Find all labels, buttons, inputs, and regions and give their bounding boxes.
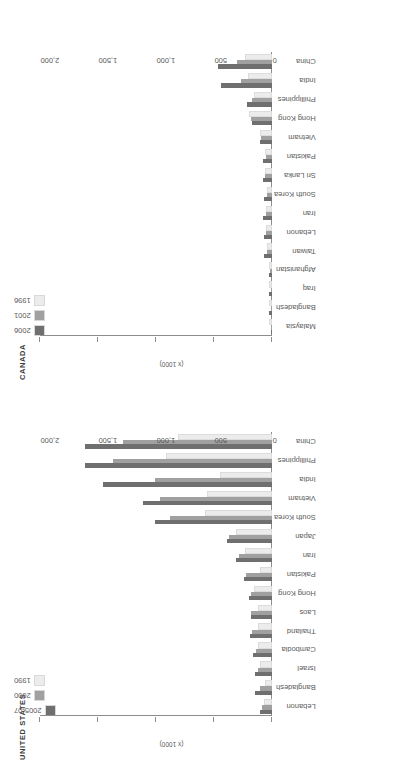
bar [266, 206, 272, 212]
bar [236, 558, 272, 562]
bar [248, 73, 272, 79]
bar [252, 630, 272, 634]
bar [143, 501, 272, 505]
bar [249, 111, 272, 117]
category-label-text: Bangladesh [274, 304, 316, 312]
bar-group [40, 640, 272, 659]
category-label-text: Iran [274, 209, 316, 217]
category-label: Israel [274, 659, 316, 678]
bar [249, 596, 272, 600]
bar [113, 459, 272, 463]
bar [251, 615, 272, 619]
plot-area-united-states: 05001,0001,5002,000(x 1000) [40, 432, 272, 716]
bar [250, 634, 272, 638]
bar-group [40, 71, 272, 90]
bar [265, 174, 272, 178]
axis-unit-label: (x 1000) [159, 741, 183, 748]
category-label-text: South Korea [274, 513, 316, 521]
bar-group [40, 222, 272, 241]
bar [269, 292, 272, 296]
category-label: Lebanon [274, 697, 316, 716]
bar [246, 573, 272, 577]
bar [155, 520, 272, 524]
bar [266, 212, 272, 216]
axis-tick-label: 1,500 [98, 436, 117, 444]
axis-tick-label: 1,000 [156, 436, 175, 444]
category-label-text: Malaysia [274, 323, 316, 331]
bar [270, 269, 272, 273]
bar [227, 539, 272, 543]
bar [155, 478, 272, 482]
category-label: Pakistan [274, 147, 316, 166]
bar [253, 653, 272, 657]
category-label-text: China [274, 58, 316, 66]
bar-group [40, 508, 272, 527]
category-labels-canada: MalaysiaBangladeshIraqAfghanistanTaiwanL… [274, 52, 316, 336]
category-label-text: Phillippines [274, 96, 316, 104]
axis-tick-label: 500 [214, 436, 227, 444]
category-label-text: Vietnam [274, 133, 316, 141]
bar [236, 529, 272, 535]
bar [85, 463, 272, 467]
bar [251, 592, 272, 596]
category-label-text: Phillippines [274, 457, 316, 465]
category-label-text: India [274, 476, 316, 484]
bar-group [40, 298, 272, 317]
category-label: Hong Kong [274, 109, 316, 128]
bar [271, 288, 272, 292]
bar [245, 54, 272, 60]
category-label-text: South Korea [274, 190, 316, 198]
panel-canada: CANADA 200620011996 05001,0001,5002,000(… [0, 0, 407, 385]
category-label: Afghanistan [274, 260, 316, 279]
chart-canada: CANADA 200620011996 05001,0001,5002,000(… [18, 50, 333, 380]
legend-label: 2005-07 [14, 707, 42, 715]
chart-page: CANADA 200620011996 05001,0001,5002,000(… [0, 0, 407, 769]
bar-group [40, 470, 272, 489]
bar [255, 672, 272, 676]
axis-tick [155, 337, 156, 342]
bar-group [40, 166, 272, 185]
bar-group [40, 546, 272, 565]
category-label: Iran [274, 203, 316, 222]
bar [205, 510, 272, 516]
bar [267, 244, 272, 250]
bar [251, 117, 272, 121]
axis-tick-label: 1,500 [98, 56, 117, 64]
bar-group [40, 659, 272, 678]
bar [254, 586, 272, 592]
bar [265, 680, 272, 686]
category-label-text: Pakistan [274, 152, 316, 160]
axis-tick-label: 2,000 [40, 56, 59, 64]
category-label-text: Cambodia [274, 646, 316, 654]
category-label: Bangladesh [274, 678, 316, 697]
bar-group [40, 90, 272, 109]
axis-tick [271, 337, 272, 342]
bar [271, 307, 272, 311]
bar [269, 311, 272, 315]
bar [260, 130, 272, 136]
bar [241, 79, 272, 83]
category-label-text: China [274, 438, 316, 446]
axis-tick [155, 717, 156, 722]
category-label: Phillippines [274, 451, 316, 470]
bar [229, 535, 273, 539]
panel-title-canada: CANADA [18, 344, 27, 380]
bar [207, 491, 272, 497]
bar [252, 98, 272, 102]
axis-tick [97, 717, 98, 722]
bar [269, 281, 272, 287]
bar-group [40, 621, 272, 640]
category-label-text: Israel [274, 665, 316, 673]
bar [271, 330, 272, 334]
category-label: Bangladesh [274, 298, 316, 317]
bar [166, 453, 272, 459]
bar [244, 577, 272, 581]
axis-tick [97, 337, 98, 342]
category-label: China [274, 52, 316, 71]
category-label-text: Hong Kong [274, 589, 316, 597]
bar [258, 624, 272, 630]
bar [264, 235, 272, 239]
bar [258, 668, 273, 672]
axis-tick [39, 717, 40, 722]
category-label: China [274, 432, 316, 451]
